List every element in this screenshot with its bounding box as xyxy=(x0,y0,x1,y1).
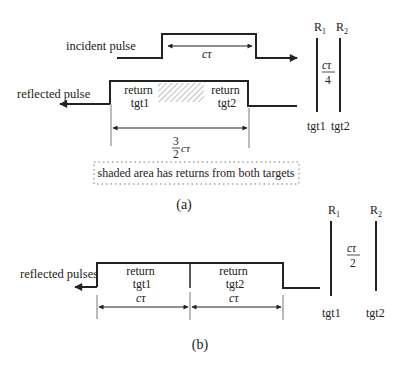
return-tgt1-text-b: return tgt1 xyxy=(126,264,158,291)
panel-a: incident pulse cτ R1 R2 cτ 4 tgt1 tgt2 r… xyxy=(17,20,350,213)
target-1-label-b: tgt1 xyxy=(322,306,341,320)
targets-b: R1 R2 cτ 2 tgt1 tgt2 xyxy=(322,203,385,320)
return-tgt1-text: return tgt1 xyxy=(124,83,156,110)
overlap-hatched-area xyxy=(158,83,204,102)
incident-width-label: cτ xyxy=(202,47,212,61)
width-2-label: cτ xyxy=(229,291,239,305)
reflected-pulses-b: reflected pulses return tgt1 return tgt2… xyxy=(20,263,320,320)
caption-a: (a) xyxy=(176,197,192,213)
separation-denominator-b: 2 xyxy=(350,257,356,269)
targets-a: R1 R2 cτ 4 tgt1 tgt2 xyxy=(307,20,350,133)
range-2-label: R2 xyxy=(336,20,348,36)
target-1-label: tgt1 xyxy=(307,119,326,133)
reflected-width-numerator: 3 xyxy=(173,135,179,147)
reflected-pulse-a: reflected pulse return tgt1 return tgt2 … xyxy=(17,81,297,160)
panel-b: reflected pulses return tgt1 return tgt2… xyxy=(20,203,385,353)
range-2-label-b: R2 xyxy=(370,203,382,219)
reflected-pulse-label: reflected pulse xyxy=(17,87,91,101)
return-tgt2-text-b: return tgt2 xyxy=(219,264,251,291)
range-1-label: R1 xyxy=(314,20,326,36)
radar-range-resolution-diagram: incident pulse cτ R1 R2 cτ 4 tgt1 tgt2 r… xyxy=(0,0,404,373)
target-2-label: tgt2 xyxy=(331,119,350,133)
target-2-label-b: tgt2 xyxy=(366,306,385,320)
width-1-label: cτ xyxy=(136,291,146,305)
separation-numerator-b: cτ xyxy=(347,242,357,254)
incident-pulse: incident pulse cτ xyxy=(66,34,297,61)
reflected-pulses-label: reflected pulses xyxy=(20,267,98,281)
separation-numerator: cτ xyxy=(322,59,332,71)
note-box: shaded area has returns from both target… xyxy=(94,162,299,184)
caption-b: (b) xyxy=(192,337,209,353)
separation-denominator: 4 xyxy=(325,74,331,86)
return-tgt2-text: return tgt2 xyxy=(211,83,243,110)
reflected-width-suffix: cτ xyxy=(181,142,191,154)
note-text: shaded area has returns from both target… xyxy=(97,166,294,180)
incident-pulse-label: incident pulse xyxy=(66,39,136,53)
range-1-label-b: R1 xyxy=(328,203,340,219)
reflected-width-denominator: 2 xyxy=(173,148,179,160)
